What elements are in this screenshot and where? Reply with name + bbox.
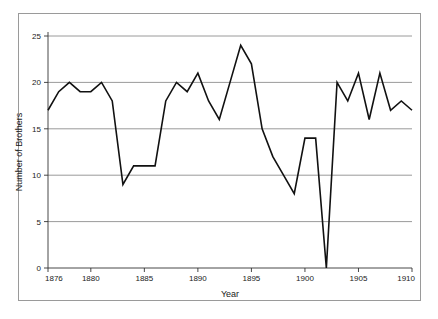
axis-lines [48, 32, 412, 268]
data-series [48, 45, 412, 268]
x-axis-title: Year [221, 289, 239, 299]
y-tick-label: 20 [32, 78, 41, 87]
x-tick-label: 1900 [296, 274, 314, 283]
y-tick-label: 15 [32, 125, 41, 134]
y-tick-label: 5 [37, 218, 42, 227]
x-tick-label: 1895 [243, 274, 261, 283]
y-tick-label: 10 [32, 171, 41, 180]
x-tick-label: 1880 [82, 274, 100, 283]
grid-lines [48, 36, 412, 222]
line-chart: 0510152025187618801885189018951900190519… [0, 0, 438, 319]
x-tick-label: 1910 [397, 274, 415, 283]
figure-container: 0510152025187618801885189018951900190519… [0, 0, 438, 319]
y-tick-label: 25 [32, 32, 41, 41]
x-tick-label: 1876 [45, 274, 63, 283]
x-tick-label: 1885 [135, 274, 153, 283]
y-tick-label: 0 [37, 264, 42, 273]
tick-marks [44, 36, 412, 272]
y-axis-title: Number of Brothers [14, 112, 24, 191]
x-tick-label: 1890 [189, 274, 207, 283]
tick-labels: 0510152025187618801885189018951900190519… [32, 32, 415, 283]
x-tick-label: 1905 [350, 274, 368, 283]
series-line-number-of-brothers [48, 45, 412, 268]
